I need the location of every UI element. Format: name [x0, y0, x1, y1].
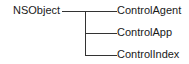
child-class-label: ControlAgent [117, 4, 181, 17]
child-class-label: ControlApp [117, 26, 172, 39]
child-class-label: ControlIndex [117, 48, 179, 61]
